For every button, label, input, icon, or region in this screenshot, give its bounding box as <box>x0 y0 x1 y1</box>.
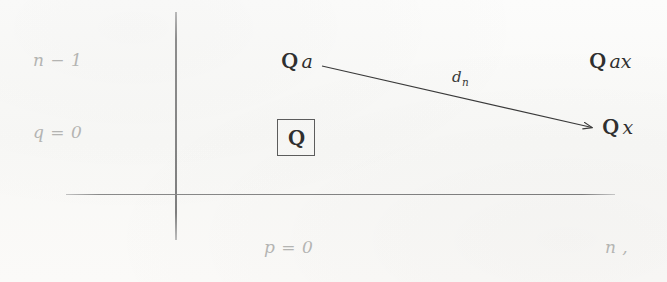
figure-canvas: n − 1 q = 0 p = 0 n , Qa Qax Qx Q dn <box>0 0 667 282</box>
paper-texture <box>0 0 667 282</box>
node-q-x-subscript: x <box>618 116 633 138</box>
axis-label-p-equals-0: p = 0 <box>264 239 313 256</box>
horizontal-axis <box>66 194 615 196</box>
axis-label-n-comma: n , <box>605 239 628 256</box>
axis-label-n-minus-1: n − 1 <box>33 52 82 69</box>
blackboard-q-glyph: Q <box>281 51 297 71</box>
node-q-ax: Qax <box>589 51 631 71</box>
node-q-a: Qa <box>281 51 313 71</box>
node-q-ax-subscript: ax <box>605 50 631 72</box>
node-q-x: Qx <box>602 117 633 137</box>
differential-arrow <box>0 0 667 282</box>
boxed-node-q-content: Q <box>278 126 314 150</box>
differential-label-subscript: n <box>462 76 469 88</box>
blackboard-q-glyph: Q <box>589 51 605 71</box>
axis-label-q-equals-0: q = 0 <box>33 124 82 141</box>
differential-arrow-label: dn <box>452 68 469 88</box>
node-q-a-subscript: a <box>297 50 312 72</box>
boxed-node-q: Q <box>277 119 315 156</box>
blackboard-q-glyph: Q <box>288 126 304 150</box>
blackboard-q-glyph: Q <box>602 117 618 137</box>
vertical-axis <box>175 12 177 240</box>
differential-label-d: d <box>452 68 462 86</box>
